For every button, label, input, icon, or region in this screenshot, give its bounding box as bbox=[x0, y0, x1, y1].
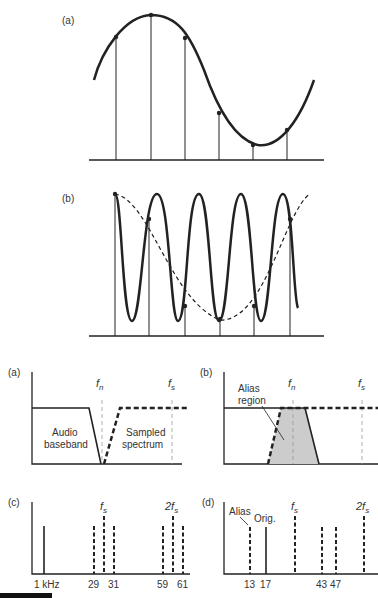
svg-text:fs: fs bbox=[168, 377, 175, 392]
svg-text:2fs: 2fs bbox=[355, 500, 369, 515]
panel-d: (d) Alias Orig. fs 2fs 13 17 43 47 bbox=[202, 497, 378, 590]
panel-c: (c) fs 2fs 1 kHz 29 31 59 61 bbox=[8, 497, 190, 590]
tick-label: 47 bbox=[330, 579, 342, 590]
spectrum-label: spectrum bbox=[122, 439, 163, 450]
page-rule bbox=[0, 593, 52, 598]
panel-label: (a) bbox=[8, 367, 20, 378]
alias-label: Alias bbox=[229, 506, 251, 517]
signal-curve bbox=[115, 194, 298, 321]
panel-top-a: (a) bbox=[62, 13, 324, 160]
panel-label: (d) bbox=[202, 497, 214, 508]
sampled-label: Sampled bbox=[126, 427, 165, 438]
svg-text:2fs: 2fs bbox=[164, 500, 178, 515]
audio-label: Audio bbox=[52, 427, 78, 438]
tick-label: 29 bbox=[88, 579, 100, 590]
panel-label: (b) bbox=[62, 193, 74, 204]
panel-mid-a: (a) fn fs Audio baseband Sampled spectru… bbox=[8, 367, 189, 464]
baseband-label: baseband bbox=[44, 439, 88, 450]
region-label: region bbox=[238, 395, 266, 406]
tick-label: 61 bbox=[177, 579, 189, 590]
tick-label: 43 bbox=[316, 579, 328, 590]
panel-mid-b: (b) fn fs Alias region bbox=[200, 367, 378, 464]
tick-label: 17 bbox=[260, 579, 272, 590]
signal-curve bbox=[94, 15, 314, 145]
panel-label: (c) bbox=[8, 497, 20, 508]
alias-label: Alias bbox=[238, 383, 260, 394]
panel-label: (b) bbox=[200, 367, 212, 378]
svg-text:fs: fs bbox=[100, 500, 107, 515]
tick-label: 59 bbox=[157, 579, 169, 590]
sampling-aliasing-figure: (a) (b) bbox=[0, 0, 378, 598]
tick-label: 1 kHz bbox=[34, 579, 60, 590]
svg-text:fn: fn bbox=[96, 377, 104, 392]
tick-label: 31 bbox=[108, 579, 120, 590]
panel-top-b: (b) bbox=[62, 192, 324, 336]
svg-text:fs: fs bbox=[358, 377, 365, 392]
svg-text:fs: fs bbox=[291, 500, 298, 515]
orig-label: Orig. bbox=[254, 513, 276, 524]
tick-label: 13 bbox=[244, 579, 256, 590]
svg-text:fn: fn bbox=[288, 377, 296, 392]
panel-label: (a) bbox=[62, 15, 74, 26]
